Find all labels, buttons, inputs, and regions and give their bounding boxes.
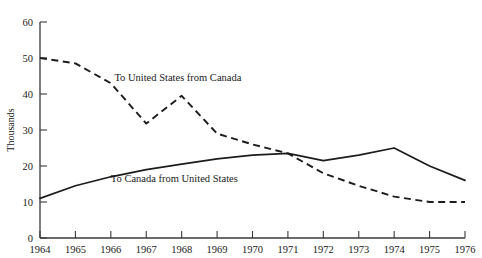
series-label: To United States from Canada	[114, 72, 241, 83]
series-line-solid	[40, 148, 465, 198]
x-tick-label: 1976	[455, 244, 476, 255]
y-tick-label: 50	[23, 53, 34, 64]
series-line-dashed	[40, 58, 465, 202]
y-tick-label: 20	[23, 161, 34, 172]
x-tick-label: 1969	[207, 244, 228, 255]
x-tick-label: 1966	[100, 244, 121, 255]
x-axis-ticks	[40, 231, 465, 238]
series-label: To Canada from United States	[111, 173, 238, 184]
x-tick-label: 1972	[313, 244, 334, 255]
y-tick-label: 60	[23, 17, 34, 28]
y-axis-tick-labels: 0102030405060	[23, 17, 34, 244]
chart-container: 0102030405060 19641965196619671968196919…	[0, 0, 482, 258]
line-chart: 0102030405060 19641965196619671968196919…	[0, 0, 482, 258]
y-axis-title: Thousands	[5, 108, 16, 151]
x-tick-label: 1975	[419, 244, 440, 255]
x-tick-label: 1968	[171, 244, 192, 255]
x-tick-label: 1967	[136, 244, 157, 255]
y-tick-label: 10	[23, 197, 34, 208]
x-tick-label: 1965	[65, 244, 86, 255]
y-tick-label: 30	[23, 125, 34, 136]
y-tick-label: 40	[23, 89, 34, 100]
x-tick-label: 1974	[384, 244, 406, 255]
y-axis: 0102030405060	[23, 17, 48, 244]
x-tick-label: 1971	[277, 244, 298, 255]
x-tick-label: 1964	[30, 244, 52, 255]
series-annotation-group: To United States from CanadaTo Canada fr…	[111, 72, 242, 183]
x-tick-label: 1970	[242, 244, 263, 255]
x-tick-label: 1973	[348, 244, 369, 255]
data-series-group	[40, 58, 465, 202]
x-axis-tick-labels: 1964196519661967196819691970197119721973…	[30, 244, 476, 255]
x-axis: 1964196519661967196819691970197119721973…	[30, 231, 476, 255]
y-axis-ticks	[40, 22, 47, 238]
y-tick-label: 0	[28, 233, 33, 244]
